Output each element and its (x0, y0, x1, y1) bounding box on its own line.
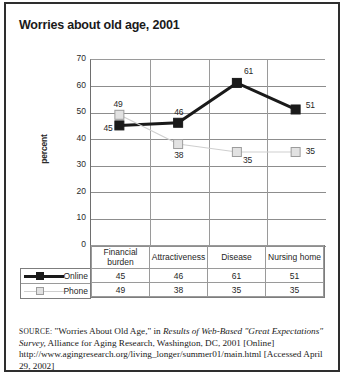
data-point-label: 45 (103, 123, 112, 133)
y-tick-label: 40 (60, 133, 86, 143)
table-header-row: Financial burdenAttractivenessDiseaseNur… (92, 246, 324, 269)
legend-item-phone[interactable]: Phone (21, 284, 91, 298)
y-tick-label: 70 (60, 53, 86, 63)
series-line-phone (119, 115, 295, 152)
table-cell: 49 (92, 283, 150, 297)
source-text-1: "Worries About Old Age," in (52, 326, 163, 336)
table-row: 45466151 (92, 269, 324, 283)
table-row: 49383535 (92, 283, 324, 297)
series-line-online (119, 83, 295, 126)
table-cell: 61 (208, 269, 266, 283)
data-point-label: 51 (306, 100, 315, 110)
chart-legend: Online Phone (20, 268, 91, 299)
data-point-label: 35 (243, 155, 252, 165)
data-point-marker (291, 148, 300, 157)
table-cell: 35 (208, 283, 266, 297)
legend-marker-online-icon (36, 272, 44, 280)
table-header-cell: Attractiveness (150, 246, 208, 269)
source-text-2: Alliance for Aging Research, Washington,… (19, 338, 323, 371)
legend-label-phone: Phone (63, 286, 88, 296)
legend-item-online[interactable]: Online (21, 269, 91, 284)
data-point-marker (115, 110, 124, 119)
legend-label-online: Online (63, 271, 88, 281)
data-table: Financial burdenAttractivenessDiseaseNur… (90, 245, 325, 298)
data-point-marker (174, 140, 183, 149)
figure-frame: Worries about old age, 2001 percent 7060… (4, 2, 340, 372)
data-point-marker (232, 78, 241, 87)
y-tick-label: 60 (60, 80, 86, 90)
source-prefix: SOURCE: (19, 327, 52, 336)
legend-line-phone-icon (24, 291, 64, 292)
table-cell: 35 (266, 283, 324, 297)
table-cell: 38 (150, 283, 208, 297)
y-tick-label: 0 (60, 239, 86, 249)
table-cell: 51 (266, 269, 324, 283)
data-point-label: 38 (174, 150, 183, 160)
data-point-label: 61 (244, 66, 253, 76)
data-point-label: 35 (306, 146, 315, 156)
y-tick-label: 30 (60, 159, 86, 169)
legend-line-online-icon (24, 275, 64, 278)
table-header-cell: Financial burden (92, 246, 150, 269)
data-point-marker (115, 121, 124, 130)
y-tick-label: 10 (60, 212, 86, 222)
y-axis-ticks: 706050403020100 (58, 59, 86, 245)
y-tick-label: 20 (60, 186, 86, 196)
table-header-cell: Disease (208, 246, 266, 269)
data-point-label: 46 (174, 107, 183, 117)
table-cell: 46 (150, 269, 208, 283)
y-tick-label: 50 (60, 106, 86, 116)
source-note: SOURCE: "Worries About Old Age," in Resu… (19, 326, 325, 372)
data-point-marker (232, 148, 241, 157)
table-cell: 45 (92, 269, 150, 283)
table-header-cell: Nursing home (266, 246, 324, 269)
data-point-marker (291, 105, 300, 114)
data-point-label: 49 (113, 99, 122, 109)
series-layer (90, 59, 325, 245)
y-axis-label: percent (39, 109, 49, 189)
data-point-marker (174, 118, 183, 127)
legend-marker-phone-icon (36, 287, 44, 295)
